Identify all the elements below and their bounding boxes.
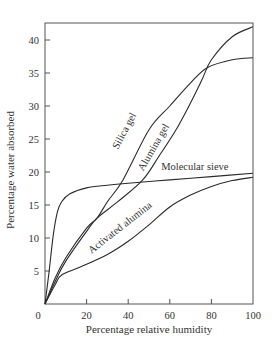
y-axis-label: Percentage water absorbed <box>4 111 16 229</box>
x-tick-label: 80 <box>206 310 217 321</box>
curve-activated-alumina <box>45 177 253 304</box>
x-axis-ticks: 020406080100 <box>35 299 261 321</box>
y-tick-label: 15 <box>29 200 40 211</box>
y-tick-label: 30 <box>29 101 40 112</box>
x-axis-label: Percentage relative humidity <box>86 323 213 335</box>
x-tick-label: 20 <box>81 310 92 321</box>
water-absorption-chart: 020406080100 510152025303540 Molecular s… <box>0 0 272 345</box>
y-tick-label: 35 <box>29 68 40 79</box>
y-tick-label: 25 <box>29 134 40 145</box>
y-tick-label: 10 <box>29 233 40 244</box>
label-silica-gel: Silica gel <box>110 111 138 151</box>
y-axis-ticks: 510152025303540 <box>29 35 51 277</box>
x-tick-label: 100 <box>245 310 261 321</box>
y-tick-label: 5 <box>34 266 39 277</box>
curve-molecular-sieve <box>45 173 253 304</box>
curve-silica-gel <box>45 58 253 304</box>
x-tick-label: 0 <box>35 310 40 321</box>
curve-labels: Molecular sieveSilica gelAlumina gelActi… <box>86 111 229 256</box>
y-tick-label: 20 <box>29 167 40 178</box>
x-tick-label: 40 <box>123 310 134 321</box>
y-tick-label: 40 <box>29 35 40 46</box>
x-tick-label: 60 <box>165 310 176 321</box>
label-molecular-sieve: Molecular sieve <box>161 161 229 172</box>
